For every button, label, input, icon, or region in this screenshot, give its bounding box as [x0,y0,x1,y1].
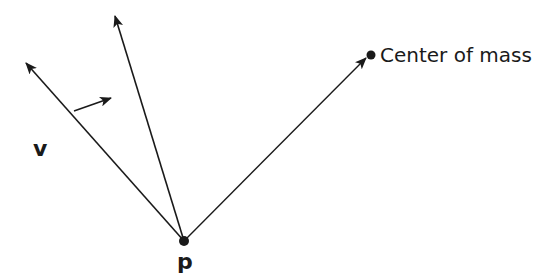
rotation-direction-arrow [74,98,111,111]
to-center-of-mass-arrow [184,58,366,241]
diagram-canvas [0,0,536,276]
point-p-dot [179,236,189,246]
center-of-mass-label: Center of mass [380,43,532,67]
velocity-vector-arrow [26,63,184,241]
velocity-label: v [33,138,47,160]
center-of-mass-dot [367,51,376,60]
point-p-label: p [177,251,193,273]
steering-vector-arrow [115,16,184,241]
